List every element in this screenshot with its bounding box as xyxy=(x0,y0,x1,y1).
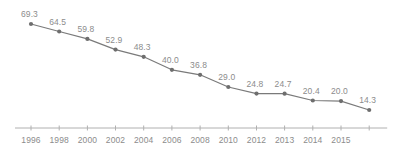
data-point-marker xyxy=(339,99,343,103)
value-labels: 69.364.559.852.948.340.036.829.024.824.7… xyxy=(21,9,376,105)
x-axis-tick-label: 2002 xyxy=(106,135,125,145)
data-point-marker xyxy=(367,108,371,112)
data-point-value-label: 24.8 xyxy=(247,79,264,89)
data-point-marker xyxy=(142,55,146,59)
data-point-marker xyxy=(198,73,202,77)
data-point-value-label: 40.0 xyxy=(162,55,179,65)
x-axis: 1996199820002002200420062008201020122013… xyxy=(15,126,387,146)
x-axis-tick-labels: 1996199820002002200420062008201020122013… xyxy=(21,135,350,145)
x-axis-tick-label: 2006 xyxy=(162,135,181,145)
data-point-marker xyxy=(311,98,315,102)
line-chart: 69.364.559.852.948.340.036.829.024.824.7… xyxy=(0,0,405,147)
x-axis-tick-label: 2015 xyxy=(331,135,350,145)
data-point-value-label: 69.3 xyxy=(21,9,38,19)
data-point-value-label: 52.9 xyxy=(106,35,123,45)
x-axis-tick-label: 2014 xyxy=(303,135,322,145)
data-point-marker xyxy=(170,68,174,72)
data-point-value-label: 36.8 xyxy=(190,60,207,70)
data-point-marker xyxy=(57,29,61,33)
data-point-marker xyxy=(85,37,89,41)
data-point-marker xyxy=(283,92,287,96)
x-axis-tick-label: 1998 xyxy=(50,135,69,145)
data-point-value-label: 20.4 xyxy=(303,86,320,96)
x-axis-tick-label: 1996 xyxy=(21,135,40,145)
data-point-value-label: 48.3 xyxy=(134,42,151,52)
data-point-value-label: 29.0 xyxy=(218,72,235,82)
x-axis-tick-label: 2004 xyxy=(134,135,153,145)
x-axis-tick-label: 2010 xyxy=(219,135,238,145)
data-point-value-label: 14.3 xyxy=(359,95,376,105)
data-point-marker xyxy=(113,48,117,52)
x-axis-tick-label: 2008 xyxy=(190,135,209,145)
chart-canvas: 69.364.559.852.948.340.036.829.024.824.7… xyxy=(0,0,405,147)
x-axis-tick-label: 2000 xyxy=(78,135,97,145)
data-point-value-label: 59.8 xyxy=(77,24,94,34)
x-axis-tick-label: 2012 xyxy=(247,135,266,145)
data-point-value-label: 20.0 xyxy=(331,86,348,96)
x-axis-tick-label: 2013 xyxy=(275,135,294,145)
data-point-marker xyxy=(226,85,230,89)
data-point-value-label: 24.7 xyxy=(275,79,292,89)
data-point-value-label: 64.5 xyxy=(49,17,66,27)
data-point-marker xyxy=(254,92,258,96)
data-point-marker xyxy=(29,22,33,26)
